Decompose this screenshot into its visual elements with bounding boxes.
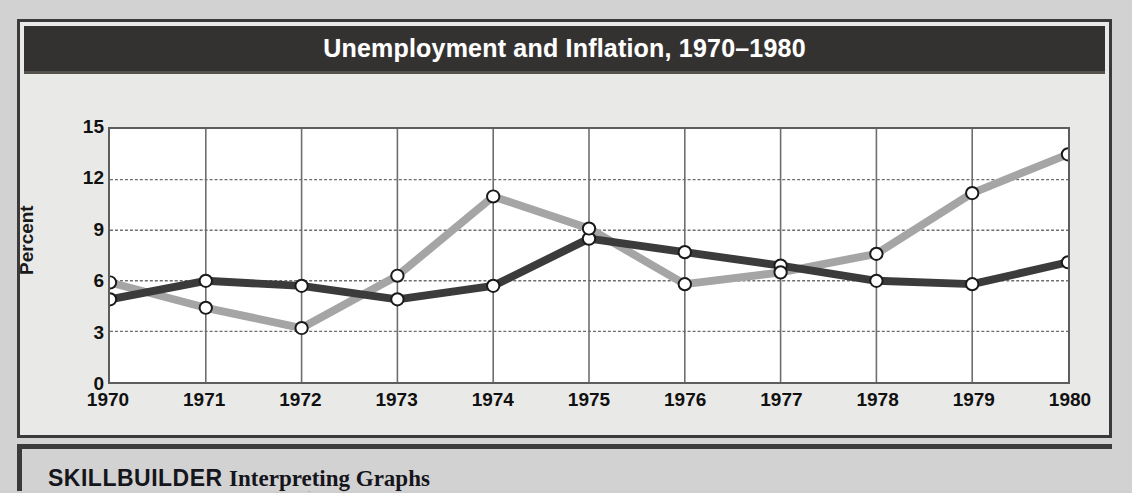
- page-title: Unemployment and Inflation, 1970–1980: [323, 34, 806, 63]
- x-tick-1972: 1972: [279, 389, 321, 411]
- y-tick-3: 3: [70, 322, 104, 344]
- y-axis-ticks: 15129630: [64, 127, 104, 384]
- chart-figure: Unemployment and Inflation, 1970–1980 Pe…: [17, 19, 1112, 438]
- chart-title-band: Unemployment and Inflation, 1970–1980: [24, 26, 1105, 74]
- y-axis-title: Percent: [16, 205, 38, 275]
- x-tick-1971: 1971: [183, 389, 225, 411]
- skillbuilder-heading: SKILLBUILDER Interpreting Graphs: [48, 465, 430, 492]
- y-tick-15: 15: [70, 116, 104, 138]
- x-tick-1976: 1976: [664, 389, 706, 411]
- x-tick-1980: 1980: [1049, 389, 1091, 411]
- chart-body: Percent 15129630 19701971197219731974197…: [20, 79, 1109, 438]
- x-axis-ticks: 1970197119721973197419751976197719781979…: [108, 389, 1070, 415]
- x-tick-1978: 1978: [856, 389, 898, 411]
- y-tick-12: 12: [70, 167, 104, 189]
- y-tick-9: 9: [70, 219, 104, 241]
- line-chart-svg: [110, 129, 1068, 382]
- x-tick-1975: 1975: [568, 389, 610, 411]
- skillbuilder-footer: SKILLBUILDER Interpreting Graphs: [17, 449, 1112, 491]
- x-tick-1979: 1979: [953, 389, 995, 411]
- x-tick-1974: 1974: [472, 389, 514, 411]
- y-tick-6: 6: [70, 270, 104, 292]
- x-tick-1970: 1970: [87, 389, 129, 411]
- x-tick-1973: 1973: [375, 389, 417, 411]
- skillbuilder-subtitle: Interpreting Graphs: [229, 466, 430, 491]
- skillbuilder-label: SKILLBUILDER: [48, 465, 223, 491]
- x-tick-1977: 1977: [760, 389, 802, 411]
- plot-area: [108, 127, 1070, 384]
